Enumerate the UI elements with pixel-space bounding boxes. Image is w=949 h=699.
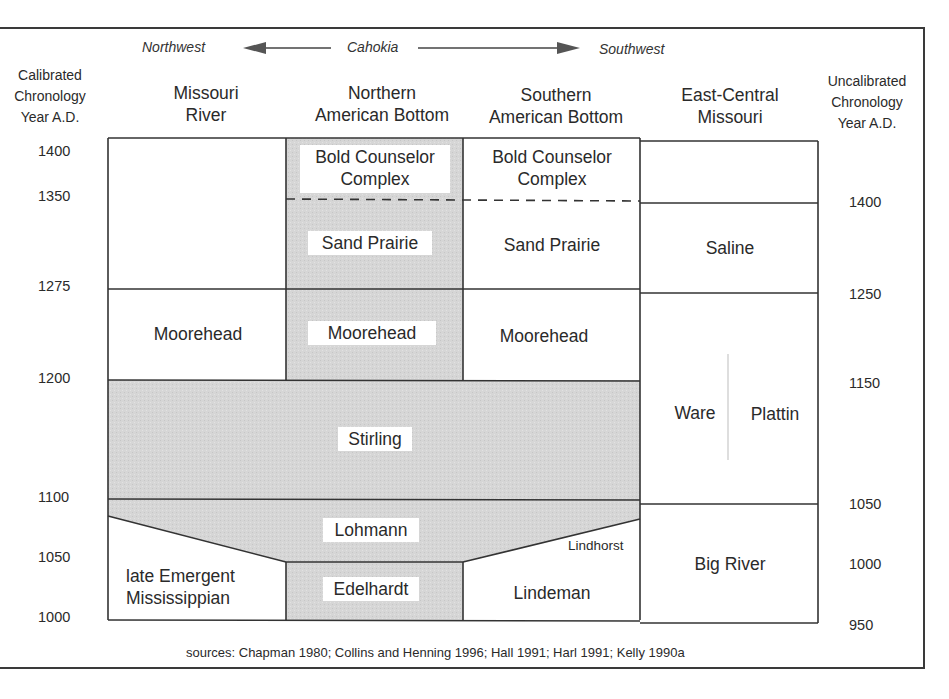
left-axis-title: Calibrated Chronology Year A.D.	[2, 65, 98, 128]
left-tick-1400: 1400	[38, 143, 70, 159]
phase-mr-late-emergent: late Emergent Mississippian	[126, 565, 235, 609]
right-tick-950: 950	[849, 617, 873, 633]
left-tick-1100: 1100	[38, 489, 69, 505]
column-header-northern-american-bottom: Northern American Bottom	[296, 82, 468, 126]
phase-nab-bold-counselor: Bold Counselor Complex	[300, 145, 450, 193]
right-tick-1050: 1050	[849, 496, 881, 512]
phase-label-line2: Complex	[308, 168, 442, 190]
column-header-line2: American Bottom	[470, 106, 642, 128]
right-arrow-icon	[418, 42, 580, 54]
phase-sab-moorehead: Moorehead	[484, 325, 604, 347]
phase-nab-edelhardt: Edelhardt	[323, 577, 419, 601]
column-header-missouri-river: Missouri River	[118, 82, 294, 126]
column-header-line1: Southern	[470, 84, 642, 106]
phase-sab-sand-prairie: Sand Prairie	[472, 234, 632, 256]
column-header-line1: Missouri	[118, 82, 294, 104]
right-axis-title: Uncalibrated Chronology Year A.D.	[812, 71, 922, 134]
left-tick-1350: 1350	[38, 188, 70, 204]
sources-citation: sources: Chapman 1980; Collins and Henni…	[186, 645, 685, 660]
phase-ecm-plattin: Plattin	[740, 403, 810, 425]
column-header-line2: American Bottom	[296, 104, 468, 126]
right-tick-1400: 1400	[849, 194, 881, 210]
phase-nab-moorehead: Moorehead	[308, 321, 436, 345]
left-axis-title-line2: Chronology	[2, 86, 98, 107]
phase-ecm-saline: Saline	[650, 237, 810, 259]
phase-lohmann: Lohmann	[323, 518, 419, 542]
phase-lindhorst: Lindhorst	[568, 538, 624, 553]
phase-label-line1: Bold Counselor	[472, 146, 632, 168]
phase-ecm-ware: Ware	[668, 402, 722, 424]
phase-stirling: Stirling	[338, 427, 412, 451]
left-axis-title-line1: Calibrated	[2, 65, 98, 86]
left-tick-1050: 1050	[38, 549, 70, 565]
phase-label-line2: Complex	[472, 168, 632, 190]
right-tick-1000: 1000	[849, 556, 881, 572]
left-tick-1000: 1000	[38, 609, 70, 625]
left-axis-title-line3: Year A.D.	[2, 107, 98, 128]
left-tick-1275: 1275	[38, 278, 70, 294]
right-axis-title-line1: Uncalibrated	[812, 71, 922, 92]
right-axis-title-line2: Chronology	[812, 92, 922, 113]
phase-label-line2: Mississippian	[126, 587, 235, 609]
phase-mr-moorehead: Moorehead	[118, 323, 278, 345]
phase-ecm-big-river: Big River	[650, 553, 810, 575]
phase-label-line1: Bold Counselor	[308, 146, 442, 168]
left-arrow-icon	[243, 42, 331, 54]
phase-sab-lindeman: Lindeman	[472, 582, 632, 604]
column-header-southern-american-bottom: Southern American Bottom	[470, 84, 642, 128]
phase-label-line1: late Emergent	[126, 565, 235, 587]
column-header-east-central-missouri: East-Central Missouri	[644, 84, 816, 128]
column-header-line2: River	[118, 104, 294, 126]
right-tick-1150: 1150	[849, 375, 880, 391]
right-tick-1250: 1250	[849, 286, 881, 302]
column-header-line1: Northern	[296, 82, 468, 104]
column-header-line1: East-Central	[644, 84, 816, 106]
column-header-line2: Missouri	[644, 106, 816, 128]
phase-sab-bold-counselor: Bold Counselor Complex	[472, 146, 632, 190]
phase-nab-sand-prairie: Sand Prairie	[308, 231, 432, 255]
left-tick-1200: 1200	[38, 370, 70, 386]
right-axis-title-line3: Year A.D.	[812, 113, 922, 134]
